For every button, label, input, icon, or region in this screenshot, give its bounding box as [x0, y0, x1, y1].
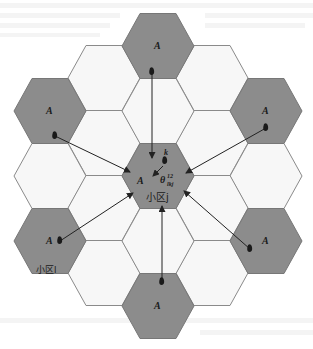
cell-A-label: A	[261, 105, 269, 116]
diagram-canvas: AAAAAA k θ 12 lkj A 小区j 小区l	[0, 0, 313, 349]
hex-grid	[14, 14, 302, 339]
target-cell-A-label: A	[136, 175, 144, 186]
hex-cell-diagram: AAAAAA k θ 12 lkj A 小区j 小区l	[0, 0, 313, 349]
cell-A-label: A	[153, 300, 161, 311]
cell-l-name: 小区l	[36, 265, 57, 275]
target-cell-name: 小区j	[146, 192, 169, 203]
angle-subscript: lkj	[167, 181, 174, 187]
user-k-label: k	[164, 148, 168, 157]
cell-A-label: A	[45, 235, 53, 246]
cell-A-label: A	[261, 235, 269, 246]
cell-A-label: A	[45, 105, 53, 116]
cell-A-label: A	[153, 40, 161, 51]
angle-superscript: 12	[167, 173, 173, 179]
angle-theta-label: θ	[160, 174, 166, 185]
